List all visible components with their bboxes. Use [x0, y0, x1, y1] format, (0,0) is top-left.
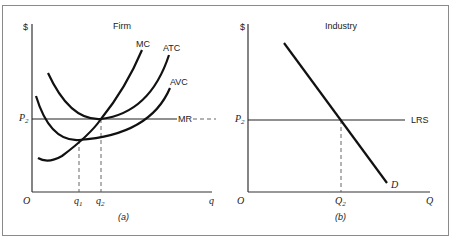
demand-line	[284, 43, 387, 183]
demand-label: D	[391, 180, 398, 190]
industry-x-axis-label: Q	[426, 196, 433, 206]
industry-title: Industry	[325, 22, 357, 31]
industry-origin-label: O	[237, 196, 244, 206]
avc-curve	[36, 88, 170, 140]
mr-label: MR	[178, 115, 192, 124]
firm-origin-label: O	[23, 196, 30, 206]
industry-axes	[248, 24, 430, 192]
firm-y-axis-label: $	[23, 23, 28, 32]
atc-label: ATC	[163, 44, 180, 53]
lrs-label: LRS	[411, 116, 429, 125]
industry-y-axis-label: $	[240, 23, 245, 32]
Q2-label: Q2	[335, 196, 346, 208]
mc-label: MC	[136, 40, 150, 49]
mc-curve	[38, 50, 142, 161]
firm-title: Firm	[113, 22, 131, 31]
industry-price-label: P2	[235, 114, 245, 126]
avc-label: AVC	[170, 78, 188, 87]
q2-label: q2	[96, 196, 105, 208]
firm-price-label: P2	[19, 113, 29, 125]
firm-x-axis-label: q	[209, 196, 214, 206]
q1-label: q1	[74, 196, 83, 208]
diagram-canvas	[0, 0, 452, 239]
industry-caption: (b)	[335, 213, 346, 222]
firm-caption: (a)	[118, 213, 129, 222]
firm-axes	[32, 24, 212, 192]
